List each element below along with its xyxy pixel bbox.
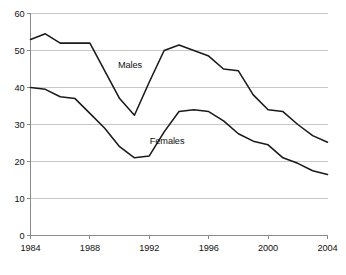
data-series-lines <box>31 34 328 175</box>
line-chart: 0102030405060 198419881992199620002004 M… <box>0 0 346 275</box>
x-axis-tick-label: 1996 <box>199 243 219 253</box>
axis-tick-marks <box>27 14 328 240</box>
series-label-males: Males <box>118 60 142 70</box>
y-axis-tick-label: 60 <box>0 9 25 19</box>
y-axis-tick-label: 10 <box>0 194 25 204</box>
x-axis-tick-label: 1984 <box>20 243 40 253</box>
x-axis-tick-label: 1988 <box>80 243 100 253</box>
y-axis-tick-label: 20 <box>0 157 25 167</box>
series-label-females: Females <box>150 136 185 146</box>
y-axis-tick-label: 30 <box>0 120 25 130</box>
y-axis-tick-label: 50 <box>0 46 25 56</box>
x-axis-tick-label: 2000 <box>258 243 278 253</box>
x-axis-tick-label: 2004 <box>317 243 337 253</box>
y-axis-tick-label: 0 <box>0 231 25 241</box>
gridlines <box>31 14 328 199</box>
y-axis-tick-label: 40 <box>0 83 25 93</box>
x-axis-tick-label: 1992 <box>139 243 159 253</box>
